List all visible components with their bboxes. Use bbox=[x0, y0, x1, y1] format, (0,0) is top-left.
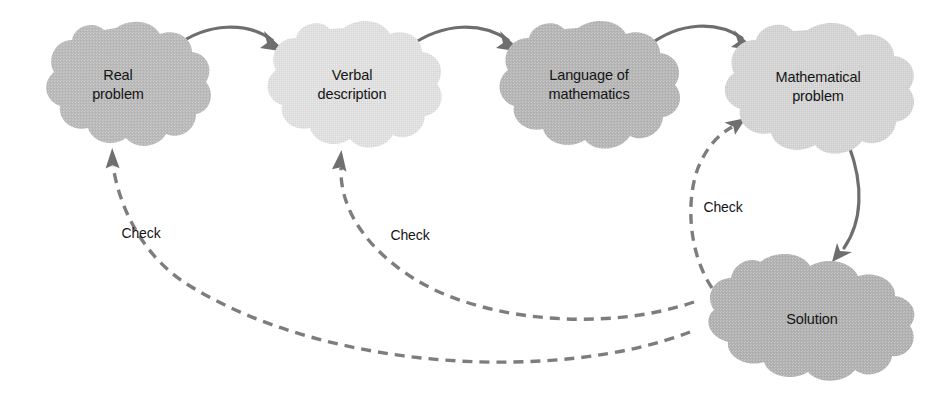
node-label-real-problem-line1: Real bbox=[103, 67, 132, 83]
solid-edge-verbal-to-language bbox=[410, 27, 522, 52]
dashed-edge-solution-to-real-problem: Check bbox=[106, 148, 690, 362]
node-language-of-mathematics[interactable]: Language of mathematics bbox=[500, 21, 681, 149]
dashed-edge-solution-to-mathematical-problem: Check bbox=[691, 118, 746, 288]
dashed-edge-solution-to-verbal-description: Check bbox=[332, 150, 694, 319]
solid-path-language-to-mathematical bbox=[648, 26, 742, 46]
solid-edge-real-to-verbal bbox=[176, 27, 286, 52]
node-verbal-description[interactable]: Verbal description bbox=[268, 21, 442, 148]
node-mathematical-problem[interactable]: Mathematical problem bbox=[725, 23, 914, 154]
node-solution[interactable]: Solution bbox=[708, 254, 914, 381]
solid-path-real-to-verbal bbox=[176, 27, 272, 46]
arrowhead-into-solution bbox=[832, 243, 852, 262]
edge-label-check-real-problem: Check bbox=[121, 225, 161, 241]
solid-path-verbal-to-language bbox=[410, 27, 508, 46]
arrowhead-into-real-problem bbox=[106, 148, 120, 169]
solid-edge-mathematical-to-solution bbox=[832, 146, 859, 262]
node-real-problem[interactable]: Real problem bbox=[46, 22, 211, 146]
cloud-shape-language-of-mathematics bbox=[500, 21, 681, 149]
diagram-canvas: Check Check Check bbox=[0, 0, 940, 399]
node-label-verbal-description-line1: Verbal bbox=[332, 67, 373, 83]
node-label-mathematical-problem-line2: problem bbox=[792, 88, 844, 104]
node-label-solution: Solution bbox=[786, 311, 838, 327]
cloud-shape-verbal-description bbox=[268, 21, 442, 148]
node-label-language-of-mathematics-line2: mathematics bbox=[548, 86, 629, 102]
arrowhead-into-verbal-description bbox=[332, 150, 347, 172]
edge-label-check-verbal-description: Check bbox=[390, 227, 430, 243]
dashed-path-solution-to-verbal bbox=[341, 168, 694, 319]
node-label-real-problem-line2: problem bbox=[92, 86, 144, 102]
node-label-verbal-description-line2: description bbox=[317, 86, 386, 102]
edge-label-check-mathematical-problem: Check bbox=[703, 199, 743, 215]
solid-path-mathematical-to-solution bbox=[844, 146, 859, 248]
node-label-mathematical-problem-line1: Mathematical bbox=[775, 69, 860, 85]
node-label-language-of-mathematics-line1: Language of bbox=[549, 67, 630, 83]
cloud-shape-real-problem bbox=[46, 22, 211, 146]
modeling-flow-diagram: Check Check Check bbox=[0, 0, 940, 399]
dashed-path-solution-to-real bbox=[113, 166, 690, 362]
